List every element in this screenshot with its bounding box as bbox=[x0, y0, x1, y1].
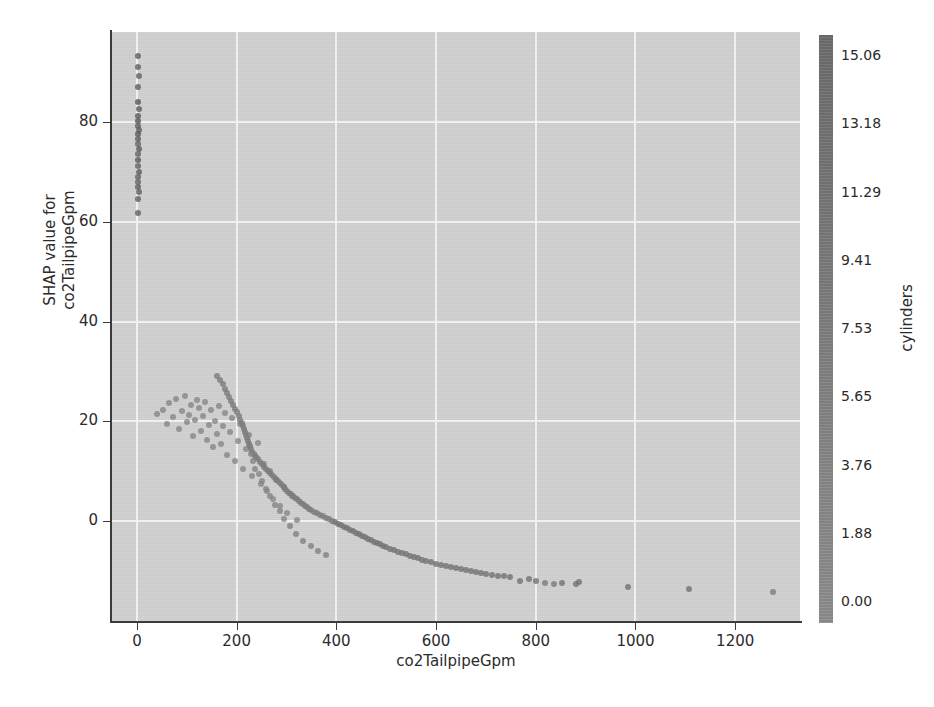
scatter-point bbox=[263, 486, 269, 492]
scatter-point bbox=[179, 408, 185, 414]
x-tick-label: 1200 bbox=[716, 632, 754, 650]
x-tick-mark bbox=[436, 622, 437, 630]
scatter-point bbox=[224, 452, 230, 458]
scatter-point bbox=[190, 433, 196, 439]
y-tick-mark bbox=[103, 521, 111, 522]
scatter-point bbox=[281, 516, 287, 522]
colorbar-tick-label: 13.18 bbox=[841, 115, 881, 131]
scatter-point bbox=[170, 414, 176, 420]
gridline-horizontal bbox=[112, 121, 800, 123]
scatter-point bbox=[256, 471, 262, 477]
scatter-point bbox=[202, 399, 208, 405]
scatter-point bbox=[277, 508, 283, 514]
scatter-point bbox=[255, 440, 261, 446]
scatter-point bbox=[164, 421, 170, 427]
scatter-point bbox=[220, 423, 226, 429]
scatter-point bbox=[229, 415, 235, 421]
colorbar-tick-label: 3.76 bbox=[841, 457, 872, 473]
scatter-point bbox=[198, 428, 204, 434]
x-tick-label: 200 bbox=[222, 632, 251, 650]
scatter-point bbox=[259, 478, 265, 484]
scatter-point bbox=[272, 502, 278, 508]
scatter-point bbox=[135, 84, 141, 90]
scatter-point bbox=[267, 493, 273, 499]
y-tick-mark bbox=[103, 322, 111, 323]
x-axis-spine bbox=[110, 621, 802, 623]
scatter-point bbox=[135, 64, 141, 70]
scatter-point bbox=[154, 411, 160, 417]
scatter-point bbox=[315, 548, 321, 554]
scatter-point bbox=[293, 531, 299, 537]
scatter-point bbox=[135, 99, 141, 105]
x-tick-label: 0 bbox=[132, 632, 142, 650]
scatter-point bbox=[300, 538, 306, 544]
scatter-point bbox=[210, 444, 216, 450]
scatter-point bbox=[507, 574, 513, 580]
scatter-point bbox=[576, 579, 582, 585]
scatter-point bbox=[308, 543, 314, 549]
scatter-point bbox=[250, 458, 256, 464]
x-tick-label: 600 bbox=[422, 632, 451, 650]
scatter-point bbox=[188, 402, 194, 408]
scatter-point bbox=[770, 589, 776, 595]
scatter-point bbox=[517, 578, 523, 584]
scatter-point bbox=[235, 438, 241, 444]
gridline-horizontal bbox=[112, 321, 800, 323]
scatter-point bbox=[559, 580, 565, 586]
y-tick-mark bbox=[103, 122, 111, 123]
scatter-point bbox=[232, 458, 238, 464]
x-tick-mark bbox=[735, 622, 736, 630]
scatter-point bbox=[248, 451, 254, 457]
y-tick-label: 40 bbox=[60, 312, 98, 330]
scatter-point bbox=[216, 403, 222, 409]
gridline-horizontal bbox=[112, 520, 800, 522]
y-tick-mark bbox=[103, 421, 111, 422]
x-tick-mark bbox=[336, 622, 337, 630]
colorbar-tick-label: 11.29 bbox=[841, 184, 881, 200]
colorbar-label-text: cylinders bbox=[898, 284, 916, 352]
scatter-point bbox=[249, 473, 255, 479]
scatter-point bbox=[136, 106, 142, 112]
colorbar-tick-label: 7.53 bbox=[841, 320, 872, 336]
scatter-point bbox=[200, 413, 206, 419]
colorbar-tick-label: 0.00 bbox=[841, 593, 872, 609]
scatter-point bbox=[686, 586, 692, 592]
scatter-point bbox=[287, 523, 293, 529]
colorbar-label: cylinders bbox=[890, 258, 924, 378]
scatter-point bbox=[227, 429, 233, 435]
shap-dependence-plot-figure: 020040060080010001200020406080 SHAP valu… bbox=[0, 0, 934, 707]
scatter-point bbox=[135, 196, 141, 202]
x-tick-label: 800 bbox=[521, 632, 550, 650]
scatter-point bbox=[135, 210, 141, 216]
scatter-point bbox=[240, 466, 246, 472]
scatter-point bbox=[160, 407, 166, 413]
scatter-point bbox=[204, 437, 210, 443]
colorbar-tick-label: 9.41 bbox=[841, 252, 872, 268]
colorbar-gradient bbox=[819, 35, 833, 623]
x-tick-mark bbox=[237, 622, 238, 630]
x-tick-mark bbox=[635, 622, 636, 630]
scatter-point bbox=[186, 412, 192, 418]
y-tick-label: 80 bbox=[60, 112, 98, 130]
scatter-point bbox=[176, 426, 182, 432]
x-tick-label: 400 bbox=[322, 632, 351, 650]
scatter-point bbox=[182, 393, 188, 399]
scatter-point bbox=[542, 580, 548, 586]
y-axis-label-line-1: SHAP value for bbox=[41, 190, 60, 309]
scatter-point bbox=[136, 189, 142, 195]
scatter-point bbox=[166, 400, 172, 406]
scatter-point bbox=[135, 53, 141, 59]
scatter-point bbox=[222, 410, 228, 416]
gridline-horizontal bbox=[112, 221, 800, 223]
scatter-point bbox=[625, 584, 631, 590]
scatter-point bbox=[208, 407, 214, 413]
scatter-point bbox=[194, 397, 200, 403]
scatter-point bbox=[173, 396, 179, 402]
scatter-point bbox=[218, 441, 224, 447]
y-tick-label: 0 bbox=[60, 511, 98, 529]
plot-area bbox=[112, 32, 800, 621]
y-tick-label: 20 bbox=[60, 411, 98, 429]
scatter-point bbox=[192, 417, 198, 423]
x-tick-mark bbox=[536, 622, 537, 630]
scatter-point bbox=[294, 517, 300, 523]
